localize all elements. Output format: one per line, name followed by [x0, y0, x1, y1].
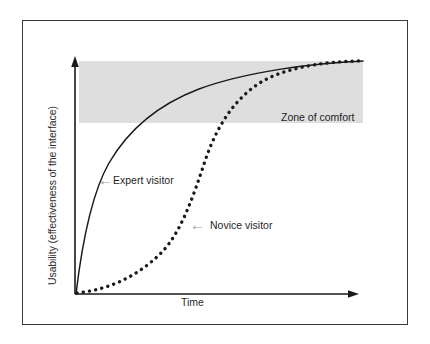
annotation-novice-visitor: ← Novice visitor — [190, 217, 272, 232]
x-axis-title: Time — [181, 296, 204, 308]
y-axis — [71, 56, 79, 294]
y-axis-title: Usability (effectiveness of the interfac… — [43, 55, 61, 285]
plot-area: Usability (effectiveness of the interfac… — [23, 21, 407, 324]
comfort-zone-label: Zone of comfort — [281, 111, 355, 123]
annotation-expert-visitor: ← Expert visitor — [98, 172, 174, 187]
figure-frame: Usability (effectiveness of the interfac… — [22, 20, 408, 325]
left-arrow-icon: ← — [190, 217, 205, 232]
x-axis — [75, 290, 359, 298]
left-arrow-icon: ← — [98, 172, 113, 187]
annotation-expert-visitor-label: Expert visitor — [113, 174, 174, 186]
chart-canvas — [23, 21, 409, 326]
x-axis-arrowhead — [348, 290, 359, 298]
y-axis-arrowhead — [71, 56, 79, 67]
annotation-novice-visitor-label: Novice visitor — [210, 219, 272, 231]
